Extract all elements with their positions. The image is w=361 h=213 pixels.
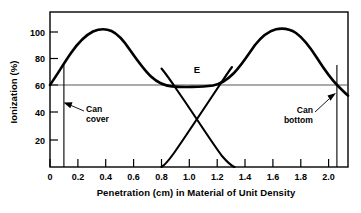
x-tick-labels: 0 0.2 0.4 0.6 0.8 1.0 1.2 1.4 1.6 1.8 2.… xyxy=(47,172,334,182)
x-tick-label-1.0: 1.0 xyxy=(183,172,196,182)
can-cover-label-line2: cover xyxy=(86,114,110,124)
y-tick-label-40: 40 xyxy=(35,108,45,118)
x-tick-label-1.8: 1.8 xyxy=(295,172,308,182)
plot-frame xyxy=(50,12,348,167)
x-tick-label-1.6: 1.6 xyxy=(267,172,280,182)
y-tick-labels: 100 80 60 40 20 xyxy=(30,28,45,146)
can-cover-annotation: Can cover xyxy=(64,102,110,124)
x-tick-label-1.2: 1.2 xyxy=(211,172,224,182)
y-axis-ticks xyxy=(50,32,58,140)
y-tick-label-60: 60 xyxy=(35,81,45,91)
y-tick-label-100: 100 xyxy=(30,28,45,38)
x-tick-label-2.0: 2.0 xyxy=(322,172,335,182)
ionization-depth-chart: E Can cover Can bottom 100 80 60 40 20 0… xyxy=(0,0,361,213)
y-axis-title: Ionization (%) xyxy=(8,60,19,123)
curve-label-E: E xyxy=(194,64,200,75)
chart-svg: E Can cover Can bottom 100 80 60 40 20 0… xyxy=(0,0,361,213)
can-bottom-label-line1: Can xyxy=(297,105,313,115)
x-tick-label-0.8: 0.8 xyxy=(155,172,168,182)
x-tick-label-0.4: 0.4 xyxy=(99,172,112,182)
x-tick-label-0: 0 xyxy=(47,172,52,182)
can-cover-label-line1: Can xyxy=(86,104,102,114)
y-tick-label-20: 20 xyxy=(35,136,45,146)
x-tick-label-1.4: 1.4 xyxy=(239,172,252,182)
can-bottom-annotation: Can bottom xyxy=(284,93,336,125)
x-tick-label-0.2: 0.2 xyxy=(72,172,85,182)
can-bottom-label-line2: bottom xyxy=(284,115,313,125)
curve-total-ionization xyxy=(50,29,348,96)
x-tick-label-0.6: 0.6 xyxy=(127,172,140,182)
y-tick-label-80: 80 xyxy=(35,54,45,64)
can-cover-leader xyxy=(70,105,84,111)
can-bottom-leader xyxy=(315,99,329,112)
can-cover-arrowhead xyxy=(64,102,73,108)
x-axis-ticks xyxy=(50,159,329,167)
x-axis-title: Penetration (cm) in Material of Unit Den… xyxy=(97,187,296,198)
